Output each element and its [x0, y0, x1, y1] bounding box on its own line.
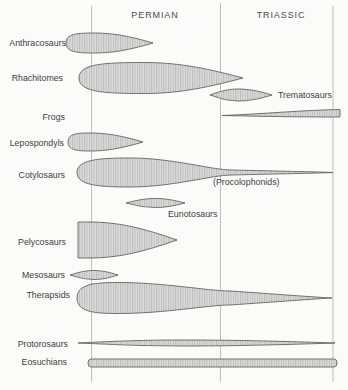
spindle-diagram: PERMIANTRIASSICAnthracosaursRhachitomesT…	[0, 0, 348, 390]
cotylosaurs-range-spindle	[77, 158, 333, 187]
therapsids-label: Therapsids	[26, 290, 70, 300]
trematosaurs-range-spindle	[210, 89, 272, 101]
timeline-gridlines	[92, 3, 334, 382]
cotylosaurs-label: Cotylosaurs	[19, 170, 66, 180]
eosuchians-range-spindle	[88, 359, 337, 367]
rhachitomes-label: Rhachitomes	[12, 73, 64, 83]
lepospondyls-range-spindle	[68, 133, 143, 151]
rhachitomes-range-spindle	[79, 63, 243, 94]
protorosaurs-range-spindle	[78, 340, 335, 346]
pelycosaurs-label: Pelycosaurs	[18, 237, 67, 247]
pelycosaurs-range-spindle	[78, 222, 177, 258]
lepospondyls-label: Lepospondyls	[10, 138, 65, 148]
mesosaurs-range-spindle	[70, 271, 118, 280]
trematosaurs-label: Trematosaurs	[278, 90, 333, 100]
mesosaurs-label: Mesosaurs	[22, 270, 66, 280]
eunotosaurs-label: Eunotosaurs	[168, 209, 218, 219]
eosuchians-label: Eosuchians	[22, 357, 68, 367]
spindle-diagram-figure: PERMIANTRIASSICAnthracosaursRhachitomesT…	[0, 0, 348, 390]
period-label-permian: PERMIAN	[131, 10, 178, 20]
frogs-range-spindle	[222, 110, 340, 118]
protorosaurs-label: Protorosaurs	[18, 339, 69, 349]
therapsids-range-spindle	[77, 283, 332, 314]
eunotosaurs-range-spindle	[126, 199, 185, 208]
period-label-triassic: TRIASSIC	[257, 10, 306, 20]
anthracosaurs-range-spindle	[66, 33, 153, 53]
frogs-label: Frogs	[43, 112, 66, 122]
anthracosaurs-label: Anthracosaurs	[9, 38, 66, 48]
cotylosaurs-annotation-label: (Procolophonids)	[213, 177, 280, 187]
taxon-shapes	[66, 33, 340, 367]
